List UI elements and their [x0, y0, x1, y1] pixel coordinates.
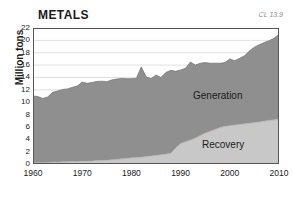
chart-figure: METALS CL 13.9 Million tons 222018161412… [0, 0, 293, 197]
x-axis-tick-label: 2010 [265, 169, 293, 178]
x-axis-tick-label: 1960 [19, 169, 47, 178]
series-label-generation: Generation [193, 90, 242, 101]
x-axis-tick-label: 1980 [117, 169, 145, 178]
x-axis-tick-label: 1970 [68, 169, 96, 178]
x-axis-tick-label: 2000 [216, 169, 244, 178]
x-axis-tick-label: 1990 [167, 169, 195, 178]
series-label-recovery: Recovery [202, 139, 244, 150]
